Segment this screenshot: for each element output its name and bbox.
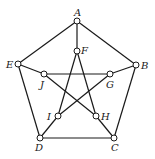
edges-group [18, 21, 136, 138]
node-label-E: E [5, 59, 14, 70]
node-J [41, 71, 47, 77]
node-label-H: H [100, 111, 110, 122]
node-H [93, 113, 99, 119]
node-label-D: D [34, 142, 43, 153]
node-G [107, 71, 113, 77]
node-B [133, 62, 139, 68]
node-label-G: G [106, 79, 114, 90]
edge-B-C [114, 65, 136, 138]
node-label-C: C [111, 142, 119, 153]
edge-D-E [18, 64, 40, 138]
node-label-B: B [140, 60, 148, 71]
node-F [74, 48, 80, 54]
node-label-F: F [80, 45, 89, 56]
node-label-J: J [38, 79, 45, 90]
petersen-graph-diagram: ABCDEFGHIJ [0, 0, 155, 159]
edge-G-I [58, 74, 110, 116]
edge-E-A [18, 21, 77, 64]
node-label-I: I [46, 111, 52, 122]
edge-H-J [44, 74, 96, 116]
edge-F-H [77, 51, 96, 116]
node-I [55, 113, 61, 119]
edge-B-G [110, 65, 136, 74]
node-C [111, 135, 117, 141]
node-E [15, 61, 21, 67]
edge-A-B [77, 21, 136, 65]
edge-E-J [18, 64, 44, 74]
edge-I-F [58, 51, 77, 116]
node-D [37, 135, 43, 141]
node-A [74, 18, 80, 24]
node-label-A: A [73, 7, 81, 18]
